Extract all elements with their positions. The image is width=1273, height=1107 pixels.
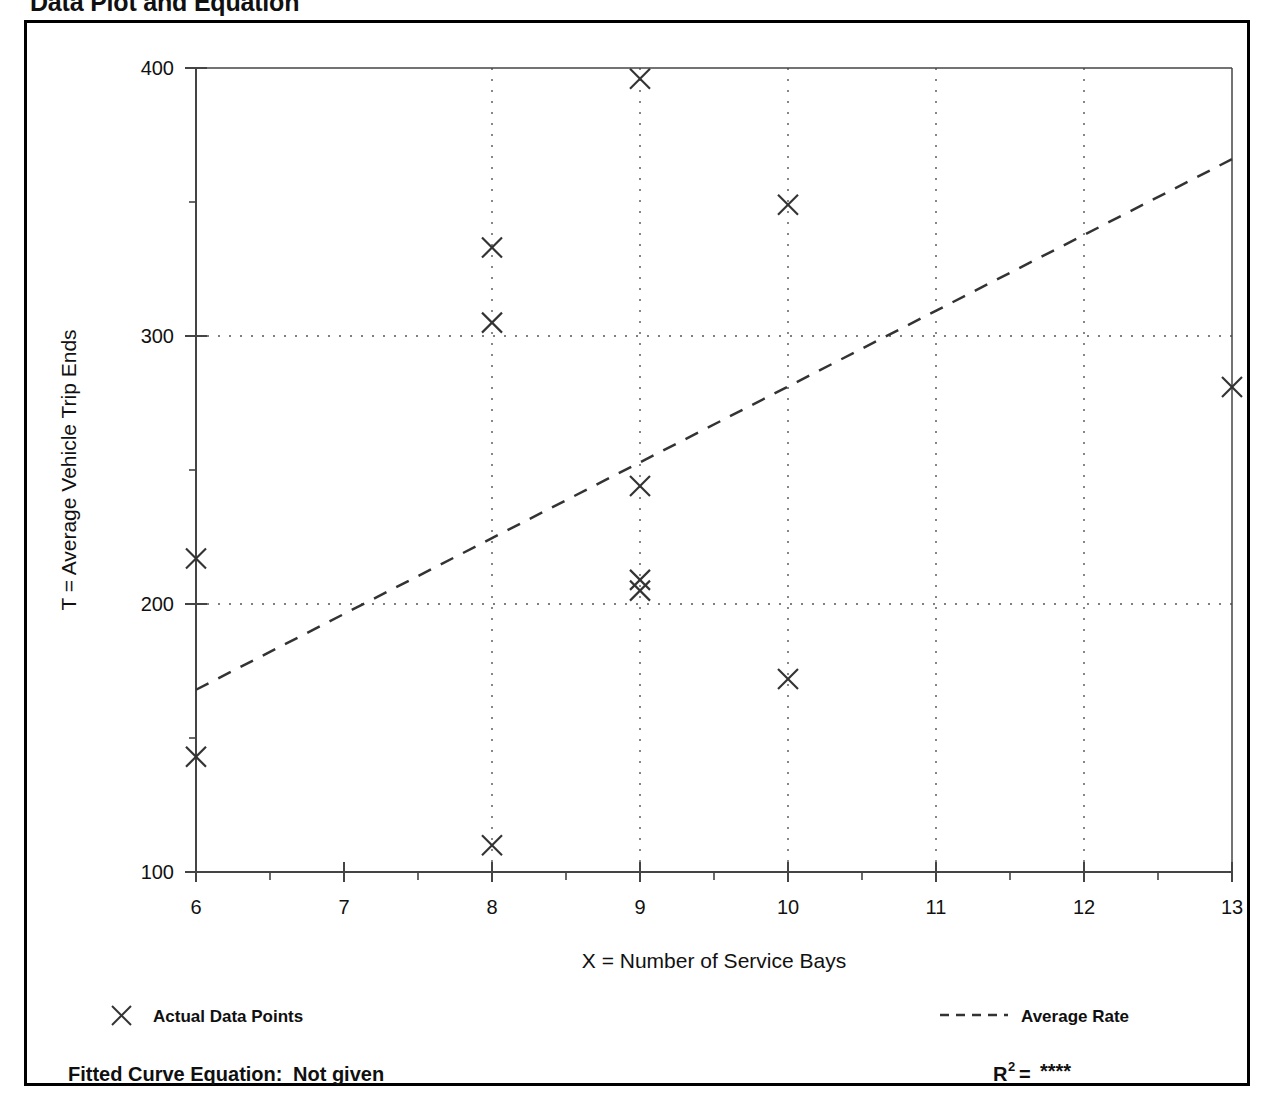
legend-average-rate: Average Rate <box>940 1007 1129 1026</box>
x-tick-label: 12 <box>1073 896 1095 918</box>
legend-data-points-label: Actual Data Points <box>153 1007 303 1026</box>
data-point-marker <box>630 476 650 496</box>
fitted-curve-equation: Fitted Curve Equation: Not given <box>68 1063 384 1085</box>
r-squared-exponent: 2 <box>1008 1059 1015 1074</box>
fitted-curve-equation-value: Not given <box>293 1063 384 1085</box>
x-axis-tick-labels: 678910111213 <box>190 896 1243 918</box>
x-tick-label: 13 <box>1221 896 1243 918</box>
plot-svg: 100200300400 678910111213 X = Number of … <box>0 0 1273 1107</box>
r-squared-equals: = <box>1019 1063 1031 1085</box>
fitted-curve-equation-label: Fitted Curve Equation: <box>68 1063 282 1085</box>
x-axis-title: X = Number of Service Bays <box>582 949 846 972</box>
x-tick-label: 10 <box>777 896 799 918</box>
gridlines <box>196 68 1232 872</box>
legend-data-points: Actual Data Points <box>112 1006 303 1026</box>
y-tick-label: 200 <box>141 593 174 615</box>
y-tick-label: 300 <box>141 325 174 347</box>
x-tick-label: 7 <box>338 896 349 918</box>
data-point-marker <box>482 313 502 333</box>
x-tick-label: 6 <box>190 896 201 918</box>
x-tick-label: 8 <box>486 896 497 918</box>
axis-ticks <box>185 68 1232 882</box>
scatter-plot-figure: 100200300400 678910111213 X = Number of … <box>0 0 1273 1107</box>
x-tick-label: 11 <box>926 896 947 918</box>
data-point-marker <box>630 69 650 89</box>
y-tick-label: 100 <box>141 861 174 883</box>
x-tick-label: 9 <box>634 896 645 918</box>
r-squared-value: **** <box>1040 1060 1071 1082</box>
r-squared-readout: R 2 = **** <box>993 1059 1071 1085</box>
data-point-marker <box>778 669 798 689</box>
data-point-marker <box>482 238 502 258</box>
y-tick-label: 400 <box>141 57 174 79</box>
y-axis-title: T = Average Vehicle Trip Ends <box>57 329 80 610</box>
average-rate-trendline <box>196 159 1232 690</box>
legend-average-rate-label: Average Rate <box>1021 1007 1129 1026</box>
data-points <box>186 69 1242 855</box>
x-marker-icon <box>112 1006 131 1025</box>
y-axis-tick-labels: 100200300400 <box>141 57 174 883</box>
r-squared-label: R <box>993 1063 1008 1085</box>
